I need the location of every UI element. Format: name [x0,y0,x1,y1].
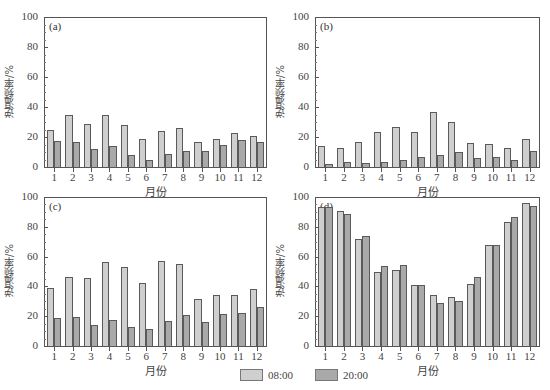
y-tick-mark [44,257,48,258]
x-tick-label: 2 [63,171,83,183]
bar-2000-month-2 [344,214,351,346]
bar-0800-month-3 [84,278,91,346]
y-tick-mark [315,286,319,287]
legend-swatch-2000 [315,369,338,381]
y-axis-label: 逆温频率/% [273,244,288,297]
y-tick-mark [315,257,319,258]
bar-0800-month-7 [430,112,437,168]
bar-0800-month-2 [65,115,72,168]
bar-0800-month-8 [176,128,183,167]
y-minor-tick [315,55,317,56]
x-tick-label: 6 [136,171,156,183]
x-tick-label: 7 [155,350,175,362]
x-tick-label: 10 [483,350,503,362]
bar-0800-month-3 [355,142,362,167]
y-minor-tick [44,62,46,63]
x-tick-label: 1 [44,350,64,362]
bar-2000-month-2 [73,142,80,167]
y-tick-label: 60 [16,250,38,262]
x-tick-label: 11 [501,171,521,183]
y-minor-tick [44,145,46,146]
y-tick-label: 40 [287,100,309,112]
y-tick-mark [44,77,48,78]
bar-0800-month-10 [213,295,220,346]
y-minor-tick [44,331,46,332]
bar-0800-month-6 [411,132,418,167]
y-minor-tick [315,145,317,146]
bar-0800-month-10 [485,144,492,167]
bar-0800-month-10 [213,139,220,168]
y-axis-label: 逆温频率/% [2,65,17,118]
y-tick-mark [315,47,319,48]
y-minor-tick [315,249,317,250]
y-minor-tick [44,100,46,101]
y-minor-tick [315,204,317,205]
bar-0800-month-8 [448,297,455,346]
bar-2000-month-11 [511,217,518,346]
y-minor-tick [44,32,46,33]
bar-2000-month-4 [381,266,388,346]
y-minor-tick [315,25,317,26]
x-tick-label: 6 [136,350,156,362]
y-minor-tick [44,212,46,213]
bar-2000-month-11 [238,140,245,167]
bar-0800-month-11 [504,148,511,168]
bar-0800-month-11 [231,133,238,168]
bar-2000-month-3 [91,325,98,346]
bar-0800-month-2 [337,211,344,346]
y-minor-tick [44,264,46,265]
y-tick-mark [44,316,48,317]
y-minor-tick [315,234,317,235]
bar-0800-month-11 [231,295,238,346]
y-minor-tick [315,100,317,101]
x-tick-label: 10 [210,350,230,362]
y-minor-tick [315,160,317,161]
x-tick-label: 1 [315,171,335,183]
bar-0800-month-9 [194,142,201,168]
y-minor-tick [44,301,46,302]
y-tick-mark [315,137,319,138]
y-minor-tick [44,152,46,153]
bar-0800-month-7 [158,261,165,346]
y-tick-label: 60 [287,70,309,82]
bar-2000-month-10 [220,314,227,346]
legend-item-2000: 20:00 [315,369,368,381]
bar-0800-month-2 [337,148,344,168]
bar-0800-month-10 [485,245,492,346]
y-tick-label: 60 [16,70,38,82]
bar-0800-month-1 [47,130,54,168]
x-axis-label: 月份 [408,362,448,378]
y-minor-tick [44,160,46,161]
bar-2000-month-5 [128,155,135,167]
bar-2000-month-7 [165,154,172,168]
y-tick-mark [44,47,48,48]
bar-0800-month-3 [355,239,362,346]
x-tick-label: 12 [520,171,540,183]
x-tick-label: 6 [408,350,428,362]
panel-label: (b) [320,20,333,32]
y-minor-tick [315,339,317,340]
x-tick-label: 10 [210,171,230,183]
y-minor-tick [315,219,317,220]
bar-2000-month-12 [257,142,264,167]
bar-0800-month-12 [522,203,529,346]
x-tick-label: 2 [334,350,354,362]
x-tick-label: 5 [390,350,410,362]
x-tick-label: 4 [371,350,391,362]
y-tick-label: 100 [16,190,38,202]
legend-label-2000: 20:00 [343,369,368,381]
bar-2000-month-9 [202,151,209,167]
bar-2000-month-9 [202,322,209,346]
y-axis-label: 逆温频率/% [273,65,288,118]
y-minor-tick [44,242,46,243]
y-minor-tick [44,324,46,325]
y-tick-label: 60 [287,250,309,262]
y-minor-tick [315,85,317,86]
bar-2000-month-1 [325,207,332,346]
y-tick-label: 100 [287,190,309,202]
y-tick-label: 20 [16,309,38,321]
bar-2000-month-10 [493,157,500,168]
y-tick-label: 20 [287,309,309,321]
x-tick-label: 3 [81,171,101,183]
y-minor-tick [315,242,317,243]
